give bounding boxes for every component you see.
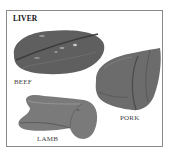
beef-liver-image	[14, 30, 104, 74]
lamb-liver-image	[18, 95, 97, 139]
lamb-label: LAMB	[37, 135, 58, 143]
pork-label: PORK	[120, 114, 139, 122]
pork-liver-image	[96, 48, 161, 110]
beef-label: BEEF	[14, 78, 32, 86]
figure-title: LIVER	[13, 14, 37, 23]
